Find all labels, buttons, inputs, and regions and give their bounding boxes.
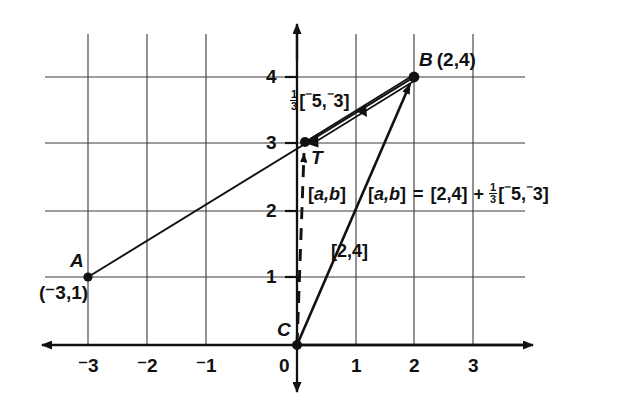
eqn-term-2-three: 3] (533, 184, 549, 204)
eqn-term-1: [2,4] (431, 184, 468, 204)
vector-c-to-b (297, 84, 410, 345)
y-tick-label-1: 1 (266, 267, 277, 286)
x-tick-label-1: 1 (351, 356, 362, 375)
vector-equation: [a,b]=[2,4]+13[⁻5,⁻3] (368, 182, 549, 205)
vector-cb-label: [2,4] (331, 242, 368, 260)
vector-bt-minus-1: ⁻ (305, 88, 312, 104)
eqn-lhs-close: ] (400, 184, 406, 204)
x-tick-label--1: ⁻1 (196, 356, 217, 375)
vector-bt-three: 3] (334, 91, 350, 111)
point-b-label: B (419, 49, 433, 70)
point-t-label: T (311, 148, 323, 167)
y-tick-label-2: 2 (266, 201, 277, 220)
vector-bt-label: 13[⁻5,⁻3] (290, 89, 350, 112)
x-tick-label-0: 0 (279, 356, 290, 375)
eqn-fraction: 13 (489, 182, 497, 205)
eqn-fraction-denominator: 3 (489, 194, 497, 205)
eqn-term-2-minus-2: ⁻ (526, 181, 533, 197)
vector-ct-vars: a,b (314, 184, 340, 204)
x-tick-label-3: 3 (468, 356, 479, 375)
eqn-equals: = (413, 184, 424, 204)
y-tick-label-4: 4 (266, 67, 277, 86)
point-a-coordinates: (⁻3,1) (39, 283, 88, 302)
y-tick-label-3: 3 (266, 133, 277, 152)
point-a-dot (83, 272, 92, 281)
eqn-plus: + (474, 184, 485, 204)
point-c-label: C (277, 320, 291, 339)
point-b-label-group: B(2,4) (419, 50, 476, 69)
point-b-dot (409, 72, 420, 83)
vector-diagram-figure: ⁻3 ⁻2 ⁻1 0 1 2 3 4 3 2 1 A (⁻3,1) B(2,4)… (0, 0, 623, 403)
point-a-label: A (70, 251, 84, 270)
vector-ct-label: [a,b] (308, 185, 346, 203)
x-tick-label--2: ⁻2 (137, 356, 158, 375)
vector-bt-minus-2: ⁻ (327, 88, 334, 104)
point-c-dot (292, 340, 302, 350)
vector-ct-bracket-close: ] (340, 184, 346, 204)
point-b-coordinates: (2,4) (437, 49, 476, 70)
eqn-term-2-five: 5, (511, 184, 526, 204)
eqn-lhs-vars: a,b (374, 184, 400, 204)
fraction-denominator: 3 (290, 101, 298, 112)
x-tick-label--3: ⁻3 (78, 356, 99, 375)
vector-bt-five: 5, (312, 91, 327, 111)
point-t-dot (300, 137, 310, 147)
vector-bt-fraction: 13 (290, 89, 298, 112)
x-tick-label-2: 2 (409, 356, 420, 375)
eqn-term-2-minus-1: ⁻ (504, 181, 511, 197)
